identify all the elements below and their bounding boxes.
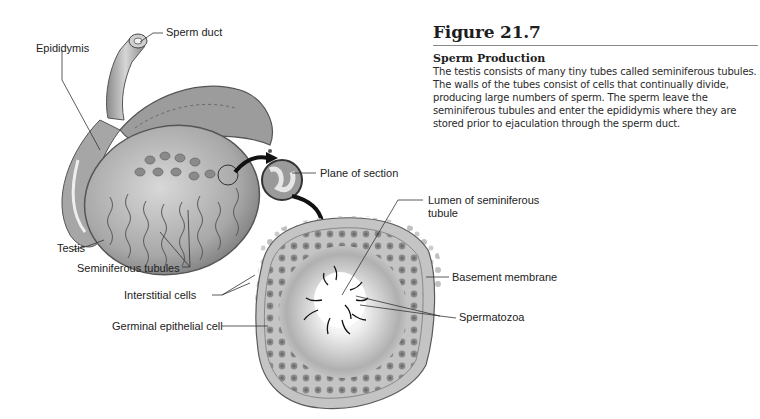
label-lumen-line2: tubule [428,207,458,220]
figure-number: Figure 21.7 [433,22,758,42]
figure-subtitle: Sperm Production [433,52,758,65]
sperm-duct-drawing [107,34,148,120]
figure-caption-text: The testis consists of many tiny tubes c… [433,65,758,130]
label-lumen-line1: Lumen of seminiferous [428,194,539,207]
label-germinal-epithelial-cell: Germinal epithelial cell [112,320,223,333]
label-basement-membrane: Basement membrane [452,271,557,284]
label-epididymis: Epididymis [36,42,89,55]
label-seminiferous-tubules: Seminiferous tubules [77,262,180,275]
caption-divider [433,45,758,46]
label-testis: Testis [57,242,85,255]
label-plane-of-section: Plane of section [320,167,398,180]
label-interstitial-cells: Interstitial cells [124,289,196,302]
figure-caption: Figure 21.7 Sperm Production The testis … [433,22,758,130]
label-spermatozoa: Spermatozoa [459,311,524,324]
label-sperm-duct: Sperm duct [166,26,222,39]
